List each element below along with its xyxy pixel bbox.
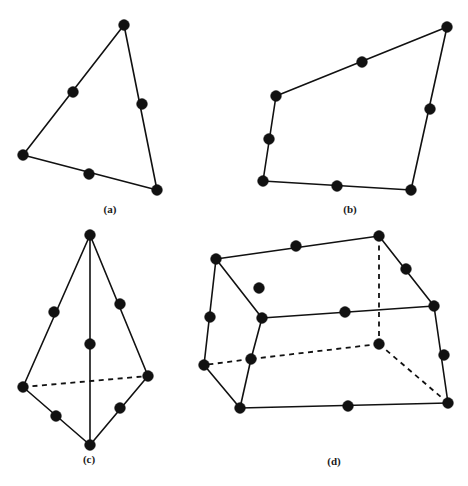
- panel-d-mid-node-mid-top-back: [291, 241, 302, 252]
- panel-a-mid-node-mid-bottom-edge: [84, 169, 95, 180]
- panel-b: [258, 22, 453, 196]
- panel-c-corner-node-bottom: [85, 440, 96, 451]
- panel-d-edge: [204, 365, 240, 408]
- panel-d: [199, 231, 454, 414]
- panel-c-mid-node-mid-apex-right: [115, 299, 126, 310]
- panel-d-mid-node-mid-top-front: [340, 307, 351, 318]
- panel-d-corner-node-top-back-left: [211, 254, 222, 265]
- panel-d-mid-node-mid-bottom-front: [343, 401, 354, 412]
- panel-d-corner-node-top-back-right: [374, 231, 385, 242]
- panel-d-corner-node-bottom-front-right: [443, 398, 454, 409]
- panel-a-corner-node-left: [18, 150, 29, 161]
- panel-c-corner-node-apex-top: [85, 230, 96, 241]
- panel-d-hidden-edge: [251, 344, 379, 359]
- panel-c-mid-node-mid-right-bottom: [115, 403, 126, 414]
- panel-d-mid-node-mid-right-vertical: [439, 350, 450, 361]
- panel-label-d: (d): [327, 455, 340, 467]
- panel-c-corner-node-right: [143, 371, 154, 382]
- panel-label-a: (a): [104, 203, 117, 215]
- panel-b-mid-node-mid-right-edge: [425, 104, 436, 115]
- panel-d-mid-node-mid-left-vertical: [205, 312, 216, 323]
- panel-a-corner-node-apex: [119, 20, 130, 31]
- panel-label-c: (c): [83, 453, 95, 465]
- panel-d-corner-node-bottom-front-left: [235, 403, 246, 414]
- panel-b-mid-node-mid-bottom-edge: [332, 181, 343, 192]
- panel-b-corner-node-top-left: [271, 91, 282, 102]
- panel-d-corner-node-bottom-back-right-hidden: [374, 339, 385, 350]
- panel-a-corner-node-bottom-right: [152, 185, 163, 196]
- panel-d-corner-node-bottom-back-left: [199, 360, 210, 371]
- panel-b-corner-node-top-right: [442, 22, 453, 33]
- panel-d-corner-node-top-front-right: [429, 301, 440, 312]
- finite-element-figure: [0, 0, 468, 486]
- panel-d-hidden-edge: [379, 344, 448, 403]
- panel-b-corner-node-bottom-left: [258, 176, 269, 187]
- panel-b-corner-node-bottom-right: [406, 185, 417, 196]
- panel-c-corner-node-left: [18, 382, 29, 393]
- panel-c-mid-node-mid-apex-bottom: [85, 339, 96, 350]
- panel-d-edge: [240, 359, 251, 408]
- panel-c-hidden-edge: [23, 376, 148, 387]
- panel-d-mid-node-mid-top-right-back: [401, 264, 412, 275]
- panel-a-mid-node-mid-left-edge: [68, 87, 79, 98]
- panel-b-mid-node-mid-top-edge: [357, 57, 368, 68]
- panel-d-corner-node-hidden-mid-left: [246, 354, 257, 365]
- panel-label-b: (b): [343, 203, 356, 215]
- panel-c-mid-node-mid-left-bottom: [51, 411, 62, 422]
- panel-c: [18, 230, 154, 451]
- panel-a-mid-node-mid-right-edge: [137, 99, 148, 110]
- panel-c-mid-node-mid-apex-left: [49, 307, 60, 318]
- panel-d-corner-node-top-front-left: [257, 313, 268, 324]
- panel-d-edge: [251, 318, 262, 359]
- panel-d-mid-node-mid-top-left-diag: [254, 283, 265, 294]
- panel-d-hidden-edge: [204, 359, 251, 365]
- panel-b-mid-node-mid-left-edge: [264, 134, 275, 145]
- panel-a: [18, 20, 163, 196]
